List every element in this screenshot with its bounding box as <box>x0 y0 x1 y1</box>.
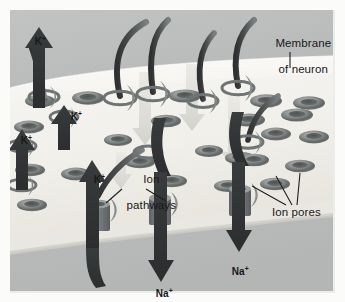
ion-pore <box>104 134 132 146</box>
ion-label-k-out-3: K+ <box>15 125 32 147</box>
ion-pores-label: Ion pores <box>272 206 321 218</box>
ion-pore <box>281 108 313 121</box>
ion-pore <box>299 131 329 144</box>
ion-label-na-in-2: Na+ <box>226 256 249 278</box>
ion-pore <box>285 160 315 173</box>
ion-label-k-out-2: K+ <box>65 101 82 123</box>
membrane-of-neuron-label: Membrane of neuron <box>262 24 338 76</box>
ion-pathways-label: Ion pathways <box>118 160 178 212</box>
ion-label-k-out-1: K+ <box>29 26 46 48</box>
ion-label-k-out-4: K+ <box>88 164 105 186</box>
ion-pore <box>195 145 223 157</box>
ion-pore <box>261 128 291 141</box>
ion-pore <box>17 199 47 211</box>
ion-pore <box>260 178 290 190</box>
ion-label-na-in-1: Na+ <box>150 278 173 300</box>
ion-pore <box>293 96 325 109</box>
